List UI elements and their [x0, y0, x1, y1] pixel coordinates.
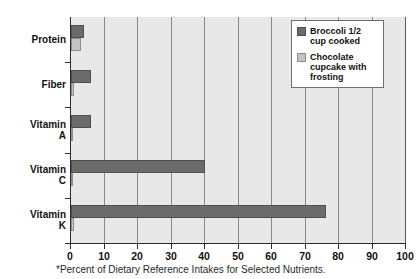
x-tick-60: [271, 244, 272, 249]
category-label-fiber: Fiber: [2, 79, 66, 90]
category-label-line1: Vitamin: [2, 164, 66, 175]
chart-footnote: *Percent of Dietary Reference Intakes fo…: [56, 264, 326, 275]
x-tick-50: [238, 244, 239, 249]
bar-cupcake-vitamin-c: [71, 173, 73, 186]
bar-broccoli-vitamin-k: [71, 205, 326, 218]
bar-broccoli-vitamin-c: [71, 160, 205, 173]
y-tick-2: [65, 153, 70, 154]
x-axis-label-20: 20: [122, 250, 152, 262]
x-axis-label-80: 80: [323, 250, 353, 262]
x-tick-100: [405, 244, 406, 249]
x-tick-40: [204, 244, 205, 249]
y-tick-4: [65, 243, 70, 244]
category-label-line1: Vitamin: [2, 209, 66, 220]
x-tick-30: [171, 244, 172, 249]
x-axis-label-70: 70: [290, 250, 320, 262]
category-label-line2: C: [2, 175, 66, 186]
x-tick-0: [70, 244, 71, 249]
category-label-line1: Fiber: [2, 79, 66, 90]
category-label-vitamin-c: VitaminC: [2, 164, 66, 186]
bar-cupcake-fiber: [71, 83, 74, 96]
x-axis-label-10: 10: [89, 250, 119, 262]
x-tick-20: [137, 244, 138, 249]
bar-cupcake-vitamin-k: [71, 218, 74, 231]
category-label-line1: Vitamin: [2, 119, 66, 130]
x-tick-10: [104, 244, 105, 249]
legend-label-broccoli: Broccoli 1/2 cup cooked: [310, 26, 379, 46]
x-tick-70: [305, 244, 306, 249]
bar-broccoli-vitamin-a: [71, 115, 91, 128]
category-label-line2: K: [2, 220, 66, 231]
legend-item-broccoli: Broccoli 1/2 cup cooked: [297, 26, 379, 46]
bar-broccoli-protein: [71, 25, 84, 38]
category-label-vitamin-k: VitaminK: [2, 209, 66, 231]
x-axis-label-90: 90: [357, 250, 387, 262]
gridline-100: [405, 17, 406, 243]
category-label-line2: A: [2, 130, 66, 141]
x-tick-90: [372, 244, 373, 249]
y-tick-3: [65, 198, 70, 199]
category-label-vitamin-a: VitaminA: [2, 119, 66, 141]
bar-broccoli-fiber: [71, 70, 91, 83]
category-label-protein: Protein: [2, 34, 66, 45]
nutrient-comparison-bar-chart: ProteinFiberVitaminAVitaminCVitaminK 010…: [0, 0, 418, 279]
y-tick-0: [65, 62, 70, 63]
category-label-line1: Protein: [2, 34, 66, 45]
x-axis-label-0: 0: [55, 250, 85, 262]
legend-label-cupcake: Chocolate cupcake with frosting: [310, 52, 379, 82]
x-axis-label-60: 60: [256, 250, 286, 262]
y-tick-1: [65, 107, 70, 108]
bar-cupcake-protein: [71, 38, 81, 51]
x-tick-80: [338, 244, 339, 249]
dark-gray-swatch: [297, 27, 306, 36]
x-axis-label-30: 30: [156, 250, 186, 262]
x-axis-label-40: 40: [189, 250, 219, 262]
x-axis-label-100: 100: [390, 250, 418, 262]
x-axis-label-50: 50: [223, 250, 253, 262]
chart-legend: Broccoli 1/2 cup cooked Chocolate cupcak…: [291, 20, 384, 88]
legend-item-cupcake: Chocolate cupcake with frosting: [297, 52, 379, 82]
bar-cupcake-vitamin-a: [71, 128, 73, 141]
light-gray-swatch: [297, 53, 306, 62]
